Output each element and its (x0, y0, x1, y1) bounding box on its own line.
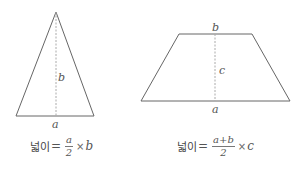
fraction-denominator: 2 (220, 147, 226, 158)
fraction-numerator: a (65, 135, 73, 147)
trapezoid-figure: b c a (141, 21, 290, 116)
fraction: a+b 2 (212, 135, 235, 158)
triangle-base-label: a (52, 118, 59, 131)
equals-sign: = (198, 139, 208, 153)
triangle-shape (16, 12, 94, 116)
area-label: 넓이 (177, 138, 197, 154)
triangle-height-label: b (58, 71, 65, 84)
trapezoid-area-formula: 넓이 = a+b 2 × c (177, 133, 254, 159)
triangle-area-formula: 넓이 = a 2 × b (30, 133, 93, 159)
trapezoid-height-label: c (219, 64, 225, 77)
factor-variable: c (247, 139, 254, 153)
trapezoid-bottom-label: a (212, 103, 219, 116)
fraction: a 2 (65, 135, 73, 158)
fraction-denominator: 2 (66, 147, 72, 158)
factor-variable: b (85, 139, 93, 153)
area-label: 넓이 (30, 138, 50, 154)
triangle-figure: b a (16, 12, 94, 131)
equals-sign: = (51, 139, 61, 153)
trapezoid-top-label: b (212, 21, 219, 34)
times-sign: × (238, 141, 246, 152)
fraction-numerator: a+b (212, 135, 235, 147)
times-sign: × (76, 141, 84, 152)
